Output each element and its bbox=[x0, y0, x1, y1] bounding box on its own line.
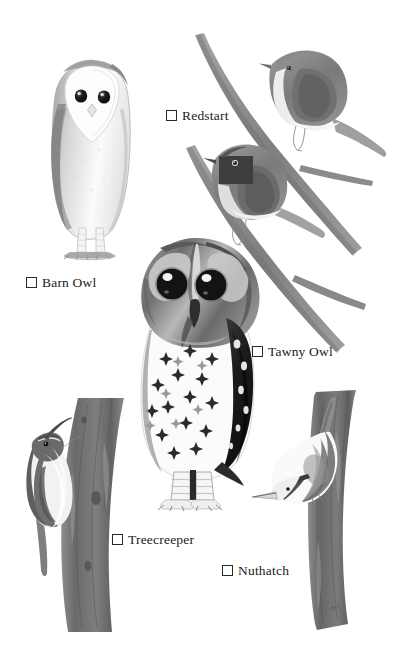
checklist-label-redstart: Redstart bbox=[182, 109, 229, 123]
checklist-item-barn-owl[interactable]: Barn Owl bbox=[26, 276, 96, 290]
checkbox-nuthatch[interactable] bbox=[222, 565, 233, 576]
checklist-item-nuthatch[interactable]: Nuthatch bbox=[222, 564, 289, 578]
barn-owl-figure bbox=[51, 60, 130, 260]
checkbox-redstart[interactable] bbox=[166, 110, 177, 121]
illustration-page: Barn Owl Redstart Tawny Owl Treecreeper … bbox=[0, 0, 412, 668]
tree-trunk-right bbox=[308, 390, 356, 630]
bird-illustrations bbox=[0, 0, 412, 668]
checkbox-tawny-owl[interactable] bbox=[252, 346, 263, 357]
checklist-item-redstart[interactable]: Redstart bbox=[166, 109, 229, 123]
tawny-owl-figure bbox=[141, 238, 260, 511]
checklist-label-treecreeper: Treecreeper bbox=[128, 533, 194, 547]
checklist-label-barn-owl: Barn Owl bbox=[42, 276, 96, 290]
checkbox-barn-owl[interactable] bbox=[26, 277, 37, 288]
tree-trunk-left bbox=[61, 398, 124, 632]
redstart-upper-figure bbox=[259, 51, 386, 157]
checklist-label-tawny-owl: Tawny Owl bbox=[268, 345, 333, 359]
checklist-item-tawny-owl[interactable]: Tawny Owl bbox=[252, 345, 333, 359]
checklist-label-nuthatch: Nuthatch bbox=[238, 564, 289, 578]
checklist-item-treecreeper[interactable]: Treecreeper bbox=[112, 533, 194, 547]
checkbox-treecreeper[interactable] bbox=[112, 534, 123, 545]
bare-branch-twig-upper bbox=[299, 165, 373, 186]
